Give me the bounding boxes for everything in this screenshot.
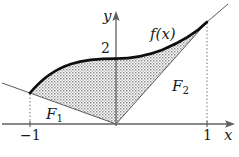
tangent-extension-left (2, 83, 30, 93)
integral-area-figure: y x 2 1 −1 f(x) F1 F2 (0, 0, 239, 157)
region-label-f1-letter: F (46, 105, 56, 123)
function-label: f(x) (150, 27, 176, 42)
x-axis-label: x (224, 128, 232, 143)
shaded-region-f1 (30, 59, 116, 124)
tangent-extension-right (207, 4, 228, 22)
region-label-f1: F1 (46, 107, 63, 124)
region-label-f2-letter: F (172, 77, 182, 95)
x-tick-label-1: 1 (203, 128, 212, 142)
x-tick-label-neg1: −1 (20, 128, 41, 142)
region-label-f2: F2 (172, 79, 189, 96)
region-label-f2-subscript: 2 (182, 85, 188, 96)
y-axis-label: y (103, 9, 111, 24)
y-tick-label-2: 2 (101, 41, 110, 55)
region-label-f1-subscript: 1 (56, 113, 62, 124)
